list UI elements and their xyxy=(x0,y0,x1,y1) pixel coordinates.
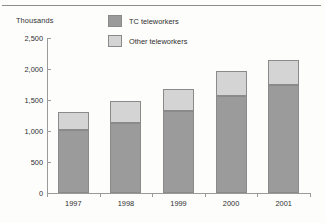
x-tick-mark xyxy=(100,193,101,197)
plot-area: 05001,0001,5002,0002,500 199719981999200… xyxy=(0,0,325,223)
stacked-bar xyxy=(268,60,299,193)
y-tick-mark xyxy=(47,131,51,132)
bar-segment-tc-teleworkers xyxy=(58,130,89,193)
y-tick-mark xyxy=(47,100,51,101)
x-tick-mark xyxy=(257,193,258,197)
x-tick-mark xyxy=(205,193,206,197)
x-tick-label: 1999 xyxy=(170,199,186,208)
stacked-bar xyxy=(110,101,141,193)
chart-figure: Thousands TC teleworkers Other teleworke… xyxy=(0,0,325,223)
y-tick-mark xyxy=(47,69,51,70)
bar-segment-other-teleworkers xyxy=(268,60,299,85)
stacked-bar xyxy=(58,112,89,193)
x-tick-label: 1997 xyxy=(65,199,81,208)
bar-segment-tc-teleworkers xyxy=(268,85,299,193)
y-tick-label: 0 xyxy=(39,189,43,198)
y-tick-label: 1,000 xyxy=(25,127,44,136)
x-tick-mark xyxy=(47,193,48,197)
bar-segment-other-teleworkers xyxy=(163,89,194,111)
y-axis-line xyxy=(47,38,48,193)
x-tick-mark xyxy=(310,193,311,197)
stacked-bar xyxy=(163,89,194,193)
y-tick-mark xyxy=(47,162,51,163)
bar-segment-other-teleworkers xyxy=(216,71,247,96)
x-tick-label: 2001 xyxy=(275,199,291,208)
bar-segment-tc-teleworkers xyxy=(110,123,141,193)
bar-segment-tc-teleworkers xyxy=(216,96,247,193)
y-tick-mark xyxy=(47,38,51,39)
y-tick-label: 1,500 xyxy=(25,96,44,105)
bar-segment-tc-teleworkers xyxy=(163,111,194,193)
x-tick-mark xyxy=(152,193,153,197)
x-tick-label: 1998 xyxy=(118,199,134,208)
x-tick-label: 2000 xyxy=(223,199,239,208)
y-tick-label: 500 xyxy=(31,158,43,167)
stacked-bar xyxy=(216,71,247,193)
bar-segment-other-teleworkers xyxy=(58,112,89,130)
y-tick-label: 2,000 xyxy=(25,65,44,74)
bar-segment-other-teleworkers xyxy=(110,101,141,123)
x-axis-line xyxy=(47,193,310,194)
y-tick-label: 2,500 xyxy=(25,34,44,43)
